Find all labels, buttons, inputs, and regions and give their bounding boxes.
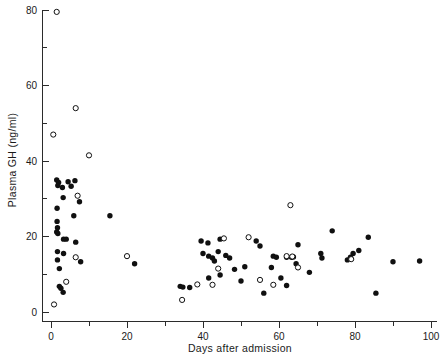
data-point-open (73, 255, 78, 260)
data-point-filled (417, 258, 422, 263)
data-point-open (210, 282, 215, 287)
data-point-filled (60, 195, 65, 200)
scatter-plot-figure: 020406080100020406080 Days after admissi… (0, 0, 442, 363)
data-point-filled (366, 235, 371, 240)
data-point-filled (63, 236, 68, 241)
data-point-open (73, 106, 78, 111)
data-point-filled (350, 251, 355, 256)
axes-group (42, 10, 437, 321)
data-point-filled (318, 251, 323, 256)
data-point-open (124, 254, 129, 259)
data-point-filled (217, 272, 222, 277)
y-axis-title: Plasma GH (ng/ml) (6, 113, 18, 207)
x-tick-label: 0 (48, 331, 54, 342)
data-point-filled (242, 264, 247, 269)
data-point-open (86, 153, 91, 158)
data-point-filled (55, 249, 60, 254)
data-point-filled (269, 265, 274, 270)
y-tick-label: 20 (26, 231, 38, 242)
data-point-filled (73, 239, 78, 244)
data-point-open (290, 254, 295, 259)
data-point-filled (257, 243, 262, 248)
data-point-open (284, 254, 289, 259)
data-point-filled (295, 242, 300, 247)
data-point-filled (187, 285, 192, 290)
data-point-open (349, 257, 354, 262)
x-tick-label: 20 (121, 331, 133, 342)
data-point-filled (72, 178, 77, 183)
data-point-filled (55, 231, 60, 236)
x-tick-label: 80 (349, 331, 361, 342)
data-point-open (295, 265, 300, 270)
data-point-filled (212, 258, 217, 263)
data-point-open (75, 193, 80, 198)
data-point-filled (57, 266, 62, 271)
data-point-filled (206, 275, 211, 280)
tick-marks-group (42, 10, 431, 328)
x-tick-label: 60 (273, 331, 285, 342)
data-point-filled (68, 184, 73, 189)
data-point-filled (238, 278, 243, 283)
data-point-filled (274, 255, 279, 260)
data-point-filled (78, 259, 83, 264)
data-point-filled (254, 238, 259, 243)
y-tick-label: 60 (26, 80, 38, 91)
data-point-filled (54, 205, 59, 210)
data-point-filled (180, 284, 185, 289)
data-point-open (216, 266, 221, 271)
data-point-filled (216, 249, 221, 254)
data-point-open (51, 132, 56, 137)
data-point-open (257, 277, 262, 282)
data-point-filled (390, 259, 395, 264)
data-point-filled (77, 199, 82, 204)
data-point-filled (284, 283, 289, 288)
data-point-open (54, 9, 59, 14)
data-point-filled (132, 261, 137, 266)
data-point-filled (107, 213, 112, 218)
data-point-open (246, 235, 251, 240)
data-points-group (51, 9, 423, 307)
data-point-filled (227, 255, 232, 260)
data-point-filled (261, 290, 266, 295)
x-tick-label: 100 (423, 331, 440, 342)
data-point-filled (65, 179, 70, 184)
data-point-filled (205, 240, 210, 245)
data-point-filled (60, 185, 65, 190)
data-point-filled (278, 275, 283, 280)
data-point-filled (54, 219, 59, 224)
x-axis-title: Days after admission (188, 342, 292, 354)
data-point-open (195, 282, 200, 287)
data-point-open (64, 279, 69, 284)
data-point-filled (319, 255, 324, 260)
data-point-filled (307, 270, 312, 275)
y-tick-label: 0 (31, 307, 37, 318)
data-point-open (288, 203, 293, 208)
data-point-open (221, 236, 226, 241)
data-point-filled (232, 267, 237, 272)
data-point-filled (61, 251, 66, 256)
data-point-open (180, 297, 185, 302)
y-tick-label: 40 (26, 156, 38, 167)
data-point-open (51, 302, 56, 307)
data-point-filled (356, 248, 361, 253)
data-point-filled (200, 251, 205, 256)
data-point-filled (55, 257, 60, 262)
data-point-filled (60, 290, 65, 295)
y-tick-label: 80 (26, 5, 38, 16)
data-point-open (271, 282, 276, 287)
data-point-filled (198, 238, 203, 243)
x-tick-label: 40 (197, 331, 209, 342)
data-point-filled (330, 228, 335, 233)
data-point-filled (71, 213, 76, 218)
data-point-filled (373, 290, 378, 295)
plot-canvas: 020406080100020406080 Days after admissi… (0, 0, 442, 363)
